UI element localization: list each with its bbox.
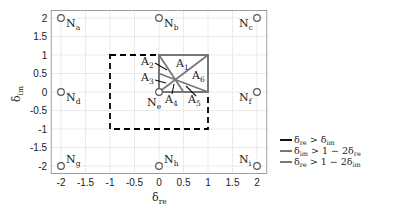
y-tick-label: -2 xyxy=(38,161,47,172)
node-marker-h xyxy=(156,163,163,170)
node-marker-a xyxy=(58,15,65,22)
x-tick-label: 2 xyxy=(254,177,260,188)
x-tick-label: 0.5 xyxy=(177,177,191,188)
node-marker-d xyxy=(58,89,65,96)
y-tick-label: 1.5 xyxy=(33,31,47,42)
node-marker-e xyxy=(156,89,163,96)
x-tick-label: 1.5 xyxy=(226,177,240,188)
node-marker-i xyxy=(254,163,261,170)
node-marker-f xyxy=(254,89,261,96)
y-tick-label: -1 xyxy=(38,124,47,135)
y-axis-label: δim xyxy=(10,86,25,102)
y-tick-label: 2 xyxy=(42,13,48,24)
node-marker-g xyxy=(58,163,65,170)
y-tick-label: 1 xyxy=(42,50,48,61)
y-tick-label: 0.5 xyxy=(33,68,47,79)
y-tick-label: -1.5 xyxy=(30,142,48,153)
x-tick-label: -2 xyxy=(57,177,66,188)
node-marker-b xyxy=(156,15,163,22)
x-axis-label: δre xyxy=(152,191,167,206)
x-tick-label: -1.5 xyxy=(77,177,95,188)
x-tick-label: -1 xyxy=(106,177,115,188)
y-tick-label: 0 xyxy=(42,87,48,98)
node-marker-c xyxy=(254,15,261,22)
constellation-diagram: -2-1.5-1-0.500.511.5221.510.50-0.5-1-1.5… xyxy=(0,0,394,210)
x-tick-label: -0.5 xyxy=(126,177,144,188)
y-tick-label: -0.5 xyxy=(30,105,48,116)
x-tick-label: 1 xyxy=(205,177,211,188)
x-tick-label: 0 xyxy=(156,177,162,188)
